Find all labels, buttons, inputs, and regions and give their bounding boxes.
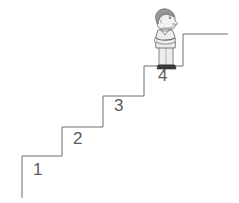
staircase-outline (22, 34, 228, 198)
step-label-3: 3 (114, 97, 123, 114)
staircase-path (22, 34, 228, 198)
step-label-4: 4 (158, 67, 167, 84)
step-label-1: 1 (33, 161, 42, 178)
step-label-2: 2 (73, 130, 82, 147)
staircase-illustration: 1 2 3 4 (0, 0, 239, 203)
person-eye (169, 17, 171, 19)
person-figure (155, 9, 178, 69)
person-hand (155, 37, 157, 43)
